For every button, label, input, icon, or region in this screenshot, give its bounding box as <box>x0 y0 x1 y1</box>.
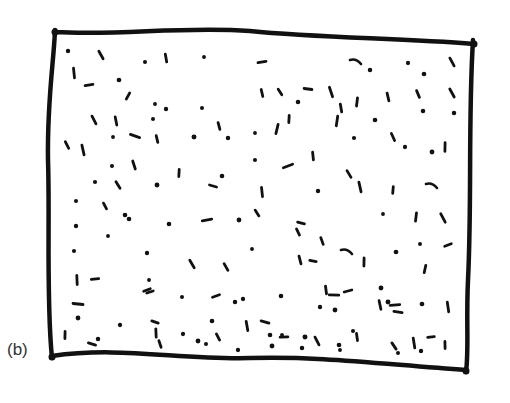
particle-mark <box>127 217 132 222</box>
particle-mark <box>253 158 257 162</box>
particle-mark <box>99 51 103 58</box>
particle-mark <box>396 351 400 355</box>
particle-mark <box>297 229 300 235</box>
particle-mark <box>424 265 426 272</box>
corner-dot-bottom-right <box>463 368 470 375</box>
particle-mark <box>153 102 157 106</box>
particle-mark <box>202 219 211 221</box>
particle-mark <box>419 349 423 353</box>
particle-mark <box>386 300 391 305</box>
particle-mark <box>255 210 259 216</box>
particle-mark <box>379 286 384 291</box>
particle-mark <box>110 164 114 168</box>
particle-mark <box>422 72 427 77</box>
particle-mark <box>192 135 197 140</box>
particle-mark <box>213 295 220 297</box>
particle-mark <box>413 338 415 348</box>
particle-mark <box>381 212 385 216</box>
particle-mark <box>210 319 215 324</box>
particle-mark <box>88 343 95 345</box>
particle-mark <box>236 348 240 352</box>
particle-mark <box>237 218 242 223</box>
particle-mark <box>357 98 358 106</box>
particle-mark <box>143 60 147 64</box>
particle-mark <box>117 78 122 83</box>
particle-mark <box>329 87 332 96</box>
particle-mark <box>91 279 98 280</box>
particle-mark <box>426 184 437 189</box>
particle-mark <box>123 213 128 218</box>
particle-mark <box>250 247 254 251</box>
particle-mark <box>165 54 166 62</box>
particle-mark <box>313 152 314 160</box>
particle-mark <box>216 334 219 340</box>
panel-label: (b) <box>7 341 28 358</box>
particle-mark <box>200 106 204 110</box>
particle-mark <box>111 135 115 139</box>
particle-mark <box>303 335 308 340</box>
particle-mark <box>341 250 352 255</box>
particle-mark <box>420 302 425 307</box>
particle-mark <box>350 60 361 65</box>
particle-mark <box>74 68 75 78</box>
particle-mark <box>155 183 160 188</box>
particle-mark <box>304 89 312 90</box>
particle-mark <box>104 203 107 209</box>
particle-mark <box>116 182 120 189</box>
particle-mark <box>65 142 68 149</box>
particle-mark <box>283 164 292 167</box>
particle-mark <box>296 100 301 105</box>
particle-mark <box>218 123 220 130</box>
particle-mark <box>450 89 454 97</box>
particle-mark <box>336 116 337 126</box>
particle-mark <box>118 323 122 327</box>
particle-mark <box>147 291 153 293</box>
particle-mark <box>92 116 96 124</box>
particle-mark <box>268 333 273 338</box>
particle-mark <box>394 311 402 312</box>
hand-drawn-diagram: (b) <box>0 0 510 403</box>
particle-mark <box>270 344 275 349</box>
particle-mark <box>220 174 225 179</box>
particle-mark <box>315 337 319 345</box>
particle-mark <box>85 84 93 85</box>
particle-mark <box>72 249 76 253</box>
particle-mark <box>392 343 396 349</box>
particle-mark <box>196 339 201 344</box>
particle-mark <box>452 111 456 115</box>
particle-mark <box>115 117 117 125</box>
particle-mark <box>337 343 342 348</box>
particle-mark <box>147 278 151 282</box>
particle-mark <box>391 134 394 141</box>
particle-mark <box>156 136 158 143</box>
particle-mark <box>241 297 245 301</box>
particle-mark <box>226 136 230 140</box>
particle-mark <box>180 295 184 299</box>
particle-mark <box>417 91 420 98</box>
particle-mark <box>76 316 81 321</box>
particle-mark <box>310 260 316 261</box>
particle-mark <box>258 61 266 62</box>
particle-mark <box>351 329 355 333</box>
particle-mark <box>359 182 361 192</box>
particle-mark <box>210 185 217 187</box>
particle-mark <box>130 134 139 137</box>
particle-mark <box>190 260 194 267</box>
particle-mark <box>421 109 426 114</box>
particle-mark <box>278 89 282 95</box>
particle-mark <box>416 213 417 221</box>
particle-mark <box>204 342 208 346</box>
particle-mark <box>233 300 238 305</box>
particle-mark <box>181 332 185 336</box>
particle-mark <box>340 104 341 112</box>
particle-mark <box>447 302 448 312</box>
particle-mark <box>316 189 320 193</box>
particle-mark <box>106 234 110 238</box>
particle-mark <box>151 117 155 121</box>
particle-mark <box>279 294 284 299</box>
particle-mark <box>352 136 356 140</box>
particle-mark <box>159 341 161 348</box>
particle-mark <box>373 118 378 123</box>
particle-mark <box>333 308 338 313</box>
particle-mark <box>418 242 422 246</box>
